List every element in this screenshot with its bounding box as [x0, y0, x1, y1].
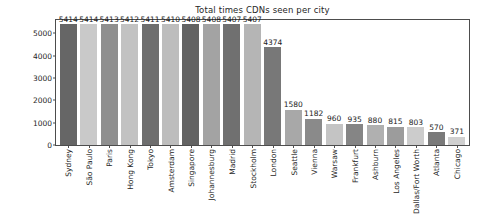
- bar[interactable]: 935: [346, 124, 363, 145]
- x-tick-mark: [293, 145, 294, 148]
- bar-value-label: 5408: [202, 16, 221, 24]
- bar-slot: 5413Paris: [99, 20, 119, 145]
- x-tick-label: Singapore: [188, 149, 196, 187]
- bar-slot: 1580Seattle: [283, 20, 303, 145]
- x-tick-mark: [375, 145, 376, 148]
- bar-slot: 1182Vienna: [303, 20, 323, 145]
- bar-slot: 5408Johannesburg: [201, 20, 221, 145]
- bar-slot: 570Atlanta: [426, 20, 446, 145]
- bar-value-label: 815: [388, 118, 402, 126]
- bar-slot: 5411Tokyo: [140, 20, 160, 145]
- x-tick-label: Madrid: [229, 149, 237, 175]
- bar-value-label: 4374: [263, 39, 282, 47]
- x-tick-label: Atlanta: [433, 149, 441, 176]
- x-tick-label: Johannesburg: [208, 149, 216, 200]
- bar-value-label: 570: [429, 124, 443, 132]
- x-tick-mark: [334, 145, 335, 148]
- bar[interactable]: 1182: [305, 119, 322, 145]
- bar[interactable]: 5413: [101, 24, 118, 145]
- bar-slot: 5414Sydney: [58, 20, 78, 145]
- bar-value-label: 803: [409, 119, 423, 127]
- bar-slot: 5407Stockholm: [242, 20, 262, 145]
- bar-value-label: 371: [450, 128, 464, 136]
- x-tick-mark: [395, 145, 396, 148]
- bar-value-label: 5410: [161, 16, 180, 24]
- bar-value-label: 5407: [243, 16, 262, 24]
- plot-area: Times CDN Seen 010002000300040005000 541…: [56, 20, 469, 145]
- bar[interactable]: 960: [326, 124, 343, 145]
- x-tick-mark: [416, 145, 417, 148]
- x-tick-mark: [191, 145, 192, 148]
- bar-series: 5414Sydney5414São Paulo5413Paris5412Hong…: [56, 20, 469, 145]
- bar-slot: 935Frankfurt: [344, 20, 364, 145]
- x-tick-mark: [436, 145, 437, 148]
- bar-value-label: 935: [347, 116, 361, 124]
- bar-slot: 371Chicago: [447, 20, 467, 145]
- x-tick-label: London: [270, 149, 278, 177]
- bar[interactable]: 5412: [121, 24, 138, 145]
- bar[interactable]: 1580: [285, 110, 302, 145]
- bar-slot: 815Los Angeles: [385, 20, 405, 145]
- bar-value-label: 5414: [79, 16, 98, 24]
- bar[interactable]: 815: [387, 127, 404, 145]
- x-tick-mark: [130, 145, 131, 148]
- bar-value-label: 5407: [222, 16, 241, 24]
- x-tick-label: Sydney: [65, 149, 73, 177]
- bar-slot: 960Warsaw: [324, 20, 344, 145]
- bar[interactable]: 5411: [142, 24, 159, 145]
- bar-value-label: 1182: [304, 110, 323, 118]
- x-tick-label: Stockholm: [249, 149, 257, 189]
- bar[interactable]: 4374: [264, 47, 281, 145]
- bar-slot: 5412Hong Kong: [119, 20, 139, 145]
- bar[interactable]: 5407: [223, 24, 240, 145]
- bar[interactable]: 5407: [244, 24, 261, 145]
- bar-value-label: 5408: [181, 16, 200, 24]
- bar-slot: 5407Madrid: [222, 20, 242, 145]
- x-tick-mark: [457, 145, 458, 148]
- x-tick-label: Ashburn: [372, 149, 380, 180]
- x-tick-label: Los Angeles: [392, 149, 400, 194]
- x-tick-label: São Paulo: [86, 149, 94, 186]
- x-tick-mark: [150, 145, 151, 148]
- bar-value-label: 1580: [284, 101, 303, 109]
- x-tick-mark: [89, 145, 90, 148]
- bar-value-label: 880: [368, 117, 382, 125]
- x-tick-label: Amsterdam: [167, 149, 175, 193]
- bar-slot: 5410Amsterdam: [160, 20, 180, 145]
- bar[interactable]: 5414: [80, 24, 97, 145]
- x-tick-label: Paris: [106, 149, 114, 167]
- x-tick-mark: [232, 145, 233, 148]
- bar[interactable]: 5408: [182, 24, 199, 145]
- bar[interactable]: 5414: [60, 24, 77, 145]
- x-tick-mark: [170, 145, 171, 148]
- x-tick-mark: [68, 145, 69, 148]
- x-tick-label: Tokyo: [147, 149, 155, 170]
- x-tick-label: Seattle: [290, 149, 298, 176]
- bar-value-label: 5412: [120, 16, 139, 24]
- x-tick-mark: [211, 145, 212, 148]
- x-tick-label: Dallas/Fort Worth: [413, 149, 421, 214]
- x-tick-mark: [252, 145, 253, 148]
- bar-value-label: 5411: [140, 16, 159, 24]
- bar[interactable]: 371: [448, 137, 465, 145]
- x-tick-label: Vienna: [311, 149, 319, 175]
- bar[interactable]: 5410: [162, 24, 179, 145]
- bar-slot: 5408Singapore: [181, 20, 201, 145]
- figure-canvas: Total times CDNs seen per city Times CDN…: [0, 0, 492, 221]
- bar-slot: 4374London: [263, 20, 283, 145]
- bar-slot: 880Ashburn: [365, 20, 385, 145]
- bar-value-label: 5413: [100, 16, 119, 24]
- bar-slot: 5414São Paulo: [78, 20, 98, 145]
- chart-title: Total times CDNs seen per city: [55, 5, 470, 15]
- x-tick-label: Warsaw: [331, 149, 339, 178]
- bar[interactable]: 880: [367, 125, 384, 145]
- bar[interactable]: 570: [428, 132, 445, 145]
- bar-slot: 803Dallas/Fort Worth: [406, 20, 426, 145]
- x-tick-mark: [314, 145, 315, 148]
- bar-value-label: 960: [327, 115, 341, 123]
- x-tick-label: Frankfurt: [352, 149, 360, 183]
- x-tick-mark: [109, 145, 110, 148]
- bar-value-label: 5414: [59, 16, 78, 24]
- bar[interactable]: 5408: [203, 24, 220, 145]
- bar[interactable]: 803: [407, 127, 424, 145]
